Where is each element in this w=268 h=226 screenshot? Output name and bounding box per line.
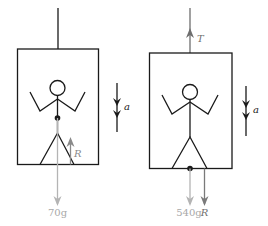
right-reaction-label: R (200, 207, 209, 218)
right-tension-label: T (197, 33, 205, 44)
left-acceleration-label: a (124, 101, 130, 112)
left-weight-arrow (54, 118, 62, 206)
right-tension-arrow (186, 8, 194, 53)
head (50, 81, 65, 96)
right-weight-arrow (186, 169, 194, 207)
left-normal-force-label: R (73, 148, 82, 159)
right-elevator-panel: T 540g R a (150, 8, 260, 218)
right-stick-figure (162, 85, 218, 169)
right-weight-label: 540g (176, 207, 202, 218)
head (183, 85, 198, 100)
left-acceleration-arrow (113, 83, 121, 132)
left-elevator-panel: 70g R a (18, 8, 131, 218)
right-acceleration-arrow (242, 86, 250, 136)
left-weight-label: 70g (48, 207, 68, 218)
legs (172, 137, 207, 169)
right-elevator-box (150, 53, 233, 169)
elevator-diagram: 70g R a T (0, 0, 268, 226)
right-reaction-arrow (201, 169, 209, 207)
right-acceleration-label: a (253, 104, 259, 115)
